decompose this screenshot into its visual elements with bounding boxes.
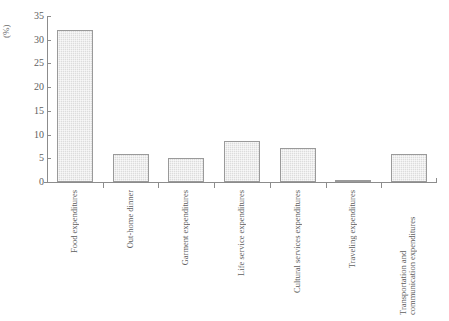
y-axis-tick-label: 20 xyxy=(4,82,44,92)
x-axis-label: Food expenditures xyxy=(70,190,79,253)
x-axis-tick xyxy=(214,183,215,188)
x-axis-tick xyxy=(381,183,382,188)
y-axis-tick xyxy=(47,182,51,183)
plot-area xyxy=(47,16,437,182)
y-axis-tick-label: 15 xyxy=(4,106,44,116)
bar xyxy=(224,141,260,182)
x-axis-tick xyxy=(270,183,271,188)
x-axis-label: Traveling expenditures xyxy=(348,190,357,268)
bar-chart: (%) 05101520253035 Food expendituresOut-… xyxy=(0,0,449,321)
bar xyxy=(280,148,316,182)
x-axis-label-line: communication expenditures xyxy=(408,190,417,315)
x-axis-line xyxy=(47,182,437,183)
bar xyxy=(335,180,371,182)
bar xyxy=(168,158,204,182)
x-axis-tick xyxy=(326,183,327,188)
bar xyxy=(113,154,149,182)
x-axis-label: Transportation andcommunication expendit… xyxy=(399,190,419,315)
x-axis-label: Cultural services expenditures xyxy=(293,190,302,293)
x-axis-label: Out-home dinner xyxy=(126,190,135,248)
y-axis-tick-label: 5 xyxy=(4,153,44,163)
x-axis-tick xyxy=(158,183,159,188)
bar xyxy=(57,30,93,182)
y-axis-tick-label: 30 xyxy=(4,35,44,45)
y-axis-tick-label: 25 xyxy=(4,58,44,68)
y-axis-tick-label: 0 xyxy=(4,177,44,187)
x-axis-tick xyxy=(103,183,104,188)
y-axis-tick-label: 10 xyxy=(4,130,44,140)
x-axis-label: Life service expenditures xyxy=(237,190,246,276)
bar xyxy=(391,154,427,182)
x-axis-label: Garment expenditures xyxy=(181,190,190,265)
y-axis-tick-label: 35 xyxy=(4,11,44,21)
